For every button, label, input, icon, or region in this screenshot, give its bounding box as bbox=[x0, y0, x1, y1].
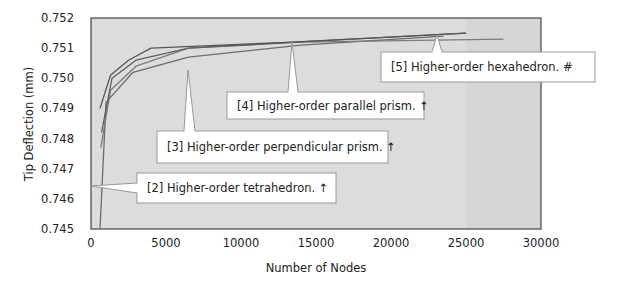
x-tick-label: 30000 bbox=[523, 236, 560, 250]
x-tick-label: 15000 bbox=[298, 236, 335, 250]
y-tick-label: 0.751 bbox=[41, 41, 74, 55]
x-axis-ticks: 050001000015000200002500030000 bbox=[87, 236, 559, 250]
y-tick-label: 0.746 bbox=[41, 192, 74, 206]
y-tick-label: 0.750 bbox=[41, 71, 74, 85]
callout-label: [2] Higher-order tetrahedron. ↑ bbox=[147, 181, 328, 195]
x-tick-label: 20000 bbox=[373, 236, 410, 250]
x-tick-label: 0 bbox=[87, 236, 94, 250]
x-tick-label: 10000 bbox=[223, 236, 260, 250]
y-tick-label: 0.745 bbox=[41, 222, 74, 236]
x-tick-label: 5000 bbox=[151, 236, 180, 250]
chart: [2] Higher-order tetrahedron. ↑[3] Highe… bbox=[0, 0, 620, 285]
y-tick-label: 0.752 bbox=[41, 11, 74, 25]
x-axis-label: Number of Nodes bbox=[266, 261, 367, 275]
x-tick-label: 25000 bbox=[448, 236, 485, 250]
callout-label: [4] Higher-order parallel prism. ↑ bbox=[237, 99, 429, 113]
y-tick-label: 0.749 bbox=[41, 101, 74, 115]
y-axis-ticks: 0.7450.7460.7470.7480.7490.7500.7510.752 bbox=[41, 11, 74, 236]
y-axis-label: Tip Deflection (mm) bbox=[22, 67, 36, 182]
y-tick-label: 0.747 bbox=[41, 162, 74, 176]
callout-label: [3] Higher-order perpendicular prism. ↑ bbox=[167, 140, 396, 154]
plot-background-shade bbox=[466, 19, 540, 228]
y-tick-label: 0.748 bbox=[41, 132, 74, 146]
callout-label: [5] Higher-order hexahedron. # bbox=[391, 60, 573, 74]
